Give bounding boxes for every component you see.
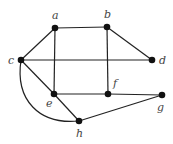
node-d (149, 57, 156, 64)
node-label-a: a (52, 9, 59, 22)
graph-diagram: abcdefgh (0, 0, 173, 144)
edge-b-d (107, 27, 152, 60)
node-label-f: f (112, 77, 119, 90)
edge-c-e (21, 60, 54, 94)
node-c (18, 57, 25, 64)
node-b (104, 24, 111, 31)
node-f (105, 91, 112, 98)
edge-b-f (107, 27, 108, 94)
edge-c-a (21, 28, 55, 60)
edge-a-e (54, 28, 55, 94)
edge-a-b (55, 27, 107, 28)
node-label-c: c (8, 54, 14, 67)
edge-e-h (54, 94, 79, 121)
node-label-e: e (46, 97, 53, 110)
node-label-h: h (76, 127, 83, 140)
edges-layer (20, 27, 162, 121)
nodes-layer (18, 24, 166, 125)
node-a (52, 25, 59, 32)
edge-f-g (108, 94, 162, 95)
edge-h-g (79, 95, 162, 121)
node-label-d: d (159, 54, 166, 67)
node-label-b: b (104, 8, 111, 21)
node-h (76, 118, 83, 125)
node-label-g: g (157, 101, 164, 114)
node-g (159, 92, 166, 99)
